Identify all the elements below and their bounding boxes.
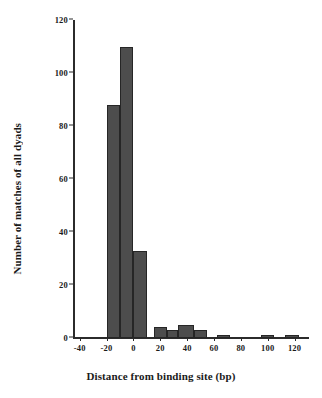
y-tick-mark [69,125,73,126]
histogram-bar [154,327,167,338]
y-tick-mark [69,284,73,285]
y-tick-label: 100 [55,68,68,78]
y-tick-label: 20 [59,280,68,290]
y-axis-title-label: Number of matches of all dyads [11,123,23,275]
histogram-bar [178,325,194,338]
x-tick-label: 20 [156,343,165,353]
y-tick-mark [69,72,73,73]
x-tick-label: 100 [261,343,274,353]
histogram-figure: Number of matches of all dyads -40-20020… [0,0,322,398]
histogram-bar [261,335,274,338]
histogram-bar [167,330,178,338]
histogram-bar [285,335,298,338]
x-tick-label: 40 [183,343,192,353]
x-axis-title: Distance from binding site (bp) [0,370,322,382]
x-tick-label: 0 [131,343,135,353]
histogram-bar [120,47,133,339]
histogram-bar [194,330,207,338]
x-tick-label: 60 [210,343,219,353]
histogram-bar [133,251,146,338]
y-tick-mark [69,19,73,20]
histogram-bar [217,335,230,338]
x-tick-label: 80 [236,343,245,353]
y-tick-label: 0 [64,333,68,343]
x-tick-label: 120 [288,343,301,353]
x-tick-label: -40 [74,343,86,353]
histogram-bar [107,105,120,338]
y-axis-title: Number of matches of all dyads [4,0,30,398]
y-tick-mark [69,337,73,338]
y-tick-label: 40 [59,227,68,237]
y-tick-mark [69,178,73,179]
y-tick-label: 60 [59,174,68,184]
x-tick-label: -20 [101,343,113,353]
plot-area: 020406080100120 [73,20,308,338]
y-tick-mark [69,231,73,232]
y-tick-label: 120 [55,15,68,25]
y-tick-label: 80 [59,121,68,131]
